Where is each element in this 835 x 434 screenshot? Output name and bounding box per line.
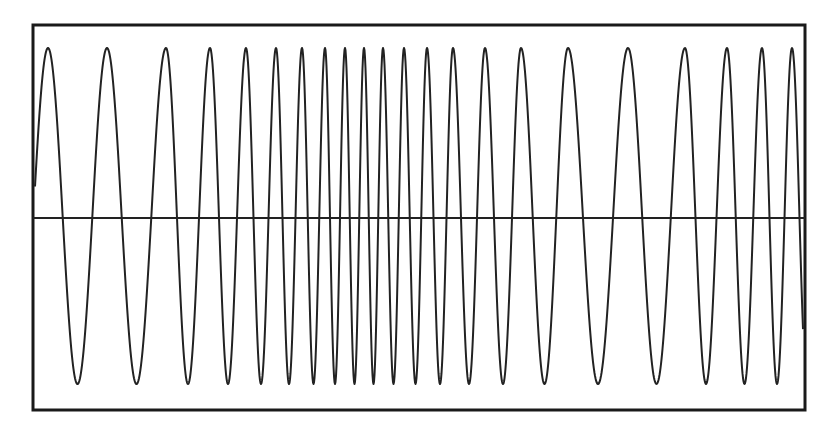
signal-line [35, 48, 803, 384]
chirp-waveform-chart [0, 0, 835, 434]
